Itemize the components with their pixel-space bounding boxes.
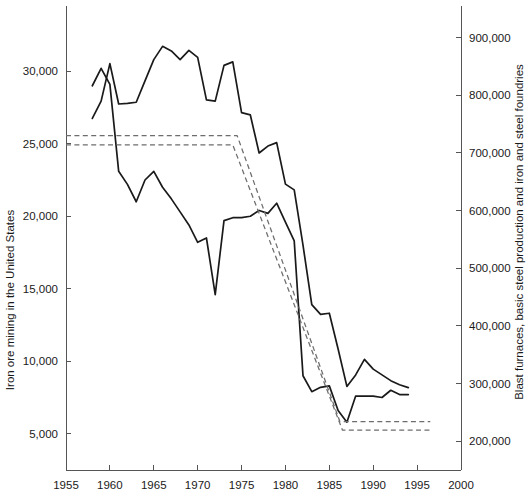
left-tick-label: 10,000 [23, 355, 58, 367]
right-axis-ticks: 200,000300,000400,000500,000600,000700,0… [456, 32, 511, 447]
bottom-tick-label: 1995 [404, 479, 430, 491]
left-tick-label: 20,000 [23, 210, 58, 222]
line-chart-figure: 5,00010,00015,00020,00025,00030,000 200,… [0, 0, 532, 502]
bottom-tick-label: 1990 [360, 479, 386, 491]
plot-frame [66, 6, 461, 470]
left-axis-ticks: 5,00010,00015,00020,00025,00030,000 [23, 65, 71, 440]
right-tick-label: 900,000 [469, 32, 511, 44]
right-tick-label: 700,000 [469, 147, 511, 159]
right-tick-label: 400,000 [469, 320, 511, 332]
bottom-axis-ticks: 1955196019651970197519801985199019952000 [53, 465, 474, 491]
right-tick-label: 800,000 [469, 89, 511, 101]
left-axis-title: Iron ore mining in the United States [4, 210, 16, 391]
dashed-reference-line-3 [66, 145, 430, 430]
dashed-reference-line-2 [66, 136, 430, 422]
bottom-tick-label: 1980 [273, 479, 299, 491]
series-line-0 [92, 68, 408, 422]
bottom-tick-label: 1960 [97, 479, 123, 491]
right-tick-label: 500,000 [469, 262, 511, 274]
bottom-tick-label: 1970 [185, 479, 211, 491]
right-tick-label: 200,000 [469, 435, 511, 447]
bottom-tick-label: 1955 [53, 479, 79, 491]
right-tick-label: 600,000 [469, 205, 511, 217]
left-tick-label: 15,000 [23, 283, 58, 295]
bottom-tick-label: 1975 [229, 479, 255, 491]
series-layer [66, 46, 430, 430]
bottom-tick-label: 1965 [141, 479, 167, 491]
bottom-tick-label: 2000 [448, 479, 474, 491]
left-tick-label: 25,000 [23, 138, 58, 150]
chart-container: 5,00010,00015,00020,00025,00030,000 200,… [0, 0, 532, 502]
bottom-tick-label: 1985 [317, 479, 343, 491]
right-axis-title: Blast furnaces, basic steel production a… [513, 64, 525, 400]
left-tick-label: 30,000 [23, 65, 58, 77]
right-tick-label: 300,000 [469, 378, 511, 390]
left-tick-label: 5,000 [29, 428, 58, 440]
